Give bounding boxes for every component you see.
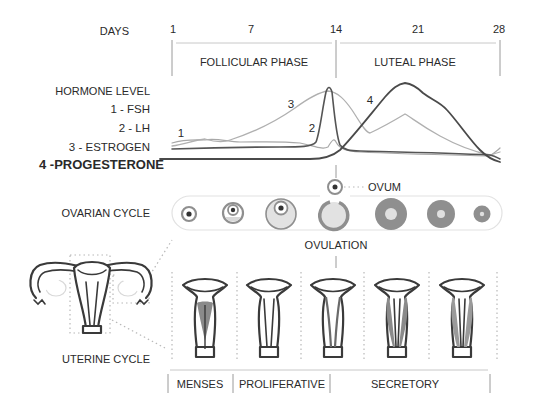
- days-axis-label: DAYS: [100, 25, 129, 37]
- uterine-cycle-label: UTERINE CYCLE: [62, 353, 150, 365]
- uterine-phase-proliferative: PROLIFERATIVE: [239, 378, 325, 390]
- legend-lh: 2 - LH: [119, 122, 150, 134]
- legend-progesterone: 4 -PROGESTERONE: [39, 157, 164, 172]
- luteal-phase-label: LUTEAL PHASE: [374, 56, 456, 68]
- legend-fsh: 1 - FSH: [110, 103, 150, 115]
- day-tick-7: 7: [248, 23, 254, 35]
- hormone-curves: [160, 83, 500, 162]
- follicular-phase-label: FOLLICULAR PHASE: [200, 56, 308, 68]
- follicle-primary: [182, 207, 196, 221]
- day-tick-1: 1: [170, 23, 176, 35]
- uterus-secretory-early: [375, 279, 419, 357]
- uterus-secretory-late: [440, 279, 484, 357]
- day-tick-28: 28: [493, 23, 505, 35]
- curve-label-progesterone: 4: [367, 94, 374, 106]
- progesterone-curve: [160, 83, 500, 162]
- legend-estrogen: 3 - ESTROGEN: [69, 141, 150, 153]
- uterine-phase-menses: MENSES: [177, 378, 223, 390]
- ovarian-cycle-label: OVARIAN CYCLE: [62, 207, 150, 219]
- follicle-secondary: [223, 203, 243, 223]
- hormone-level-title: HORMONE LEVEL: [55, 85, 150, 97]
- corpus-luteum-large: [375, 198, 407, 230]
- ovulation-label: OVULATION: [305, 239, 368, 251]
- day-tick-14: 14: [330, 23, 342, 35]
- curve-label-estrogen: 3: [288, 98, 294, 110]
- uterus-proliferative-late: [311, 279, 355, 357]
- curve-label-fsh: 1: [178, 127, 184, 139]
- lh-curve: [172, 88, 500, 160]
- ovarian-follicles: [182, 198, 491, 230]
- uterine-phase-secretory: SECRETORY: [371, 378, 440, 390]
- uterus-menses: [183, 279, 227, 357]
- ovum: [328, 180, 342, 194]
- corpus-albicans: [474, 206, 491, 223]
- follicle-mature: [266, 199, 296, 229]
- ovum-label: OVUM: [368, 181, 401, 193]
- uterus-anatomy-illustration: [30, 240, 172, 348]
- curve-label-lh: 2: [309, 122, 315, 134]
- day-tick-21: 21: [412, 23, 424, 35]
- corpus-luteum-medium: [427, 200, 455, 228]
- uterus-proliferative-early: [247, 279, 291, 357]
- follicle-ruptured: [320, 202, 348, 230]
- menstrual-cycle-diagram: DAYS 1 7 14 21 28 FOLLICULAR PHASE LUTEA…: [0, 0, 534, 413]
